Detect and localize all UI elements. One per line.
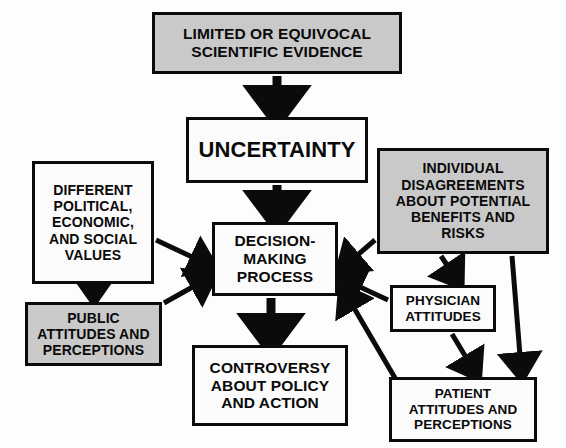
edge-public-to-decision — [164, 280, 205, 303]
node-label: CONTROVERSY ABOUT POLICY AND ACTION — [207, 359, 334, 413]
node-label: PATIENT ATTITUDES AND PERCEPTIONS — [406, 386, 521, 433]
flowchart-canvas: LIMITED OR EQUIVOCAL SCIENTIFIC EVIDENCE… — [0, 0, 566, 448]
node-patient-attitudes-and-perceptions[interactable]: PATIENT ATTITUDES AND PERCEPTIONS — [389, 377, 537, 442]
node-controversy-about-policy-and-action[interactable]: CONTROVERSY ABOUT POLICY AND ACTION — [192, 345, 348, 426]
edge-patient-to-decision — [347, 296, 395, 378]
node-physician-attitudes[interactable]: PHYSICIAN ATTITUDES — [390, 285, 496, 332]
edge-physician-to-patient — [452, 334, 473, 369]
edge-individual-to-decision — [347, 240, 375, 264]
node-label: DECISION- MAKING PROCESS — [232, 232, 319, 286]
node-label: UNCERTAINTY — [195, 137, 358, 163]
node-uncertainty[interactable]: UNCERTAINTY — [186, 117, 368, 183]
node-label: LIMITED OR EQUIVOCAL SCIENTIFIC EVIDENCE — [180, 25, 374, 61]
edge-values-to-decision — [156, 240, 205, 263]
node-label: DIFFERENT POLITICAL, ECONOMIC, AND SOCIA… — [46, 182, 140, 263]
edge-physician-to-decision — [347, 281, 388, 300]
node-public-attitudes-and-perceptions[interactable]: PUBLIC ATTITUDES AND PERCEPTIONS — [25, 302, 162, 366]
edge-individual-to-physician — [441, 256, 455, 277]
node-label: INDIVIDUAL DISAGREEMENTS ABOUT POTENTIAL… — [393, 160, 534, 241]
edge-individual-to-patient — [512, 256, 521, 368]
node-label: PUBLIC ATTITUDES AND PERCEPTIONS — [34, 310, 153, 359]
node-different-political-economic-and-social-values[interactable]: DIFFERENT POLITICAL, ECONOMIC, AND SOCIA… — [32, 161, 154, 284]
node-individual-disagreements-about-potential-benefits-and-risks[interactable]: INDIVIDUAL DISAGREEMENTS ABOUT POTENTIAL… — [377, 148, 549, 254]
node-decision-making-process[interactable]: DECISION- MAKING PROCESS — [212, 222, 338, 296]
node-limited-or-equivocal-scientific-evidence[interactable]: LIMITED OR EQUIVOCAL SCIENTIFIC EVIDENCE — [152, 12, 402, 74]
node-label: PHYSICIAN ATTITUDES — [402, 293, 484, 324]
